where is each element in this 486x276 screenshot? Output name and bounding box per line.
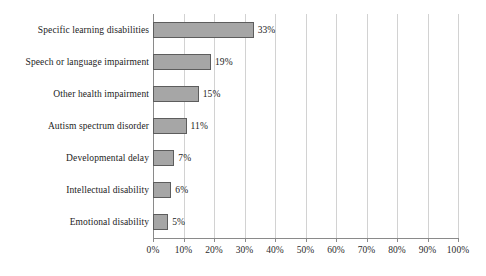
- bar-value-label: 5%: [172, 217, 185, 227]
- tick-mark-20: [214, 238, 215, 242]
- bar: [153, 54, 211, 70]
- tick-mark-100: [458, 238, 459, 242]
- tick-mark-80: [397, 238, 398, 242]
- bar-row: [153, 86, 458, 102]
- bar-row: [153, 182, 458, 198]
- tick-mark-70: [367, 238, 368, 242]
- category-label: Intellectual disability: [66, 185, 149, 195]
- bar: [153, 214, 168, 230]
- x-tick-label: 30%: [236, 245, 254, 255]
- tick-mark-90: [428, 238, 429, 242]
- x-tick-label: 0%: [147, 245, 160, 255]
- category-label: Other health impairment: [53, 89, 149, 99]
- tick-mark-30: [245, 238, 246, 242]
- bar: [153, 182, 171, 198]
- bar-value-label: 11%: [191, 121, 208, 131]
- bar-value-label: 15%: [203, 89, 221, 99]
- bar-row: [153, 214, 458, 230]
- x-tick-label: 40%: [266, 245, 284, 255]
- category-label: Autism spectrum disorder: [48, 121, 149, 131]
- bar: [153, 22, 254, 38]
- x-tick-label: 50%: [297, 245, 315, 255]
- category-label: Emotional disability: [70, 217, 149, 227]
- x-tick-label: 10%: [175, 245, 193, 255]
- tick-mark-10: [184, 238, 185, 242]
- category-label: Specific learning disabilities: [38, 25, 149, 35]
- bar-chart: 0%10%20%30%40%50%60%70%80%90%100% Specif…: [0, 0, 486, 276]
- tick-mark-60: [336, 238, 337, 242]
- bar-row: [153, 150, 458, 166]
- x-tick-label: 100%: [447, 245, 470, 255]
- tick-mark-50: [306, 238, 307, 242]
- tick-mark-40: [275, 238, 276, 242]
- bar: [153, 86, 199, 102]
- x-tick-label: 80%: [388, 245, 406, 255]
- bar: [153, 118, 187, 134]
- bar-row: [153, 22, 458, 38]
- gridline-100: [458, 14, 459, 238]
- bar-row: [153, 54, 458, 70]
- bar-value-label: 33%: [258, 25, 276, 35]
- x-tick-label: 20%: [205, 245, 223, 255]
- bar-value-label: 6%: [175, 185, 188, 195]
- x-tick-label: 60%: [327, 245, 345, 255]
- x-tick-label: 70%: [358, 245, 376, 255]
- bar: [153, 150, 174, 166]
- bar-value-label: 7%: [178, 153, 191, 163]
- category-label: Developmental delay: [66, 153, 149, 163]
- tick-mark-0: [153, 238, 154, 242]
- category-label: Speech or language impairment: [26, 57, 149, 67]
- x-tick-label: 90%: [419, 245, 437, 255]
- bar-value-label: 19%: [215, 57, 233, 67]
